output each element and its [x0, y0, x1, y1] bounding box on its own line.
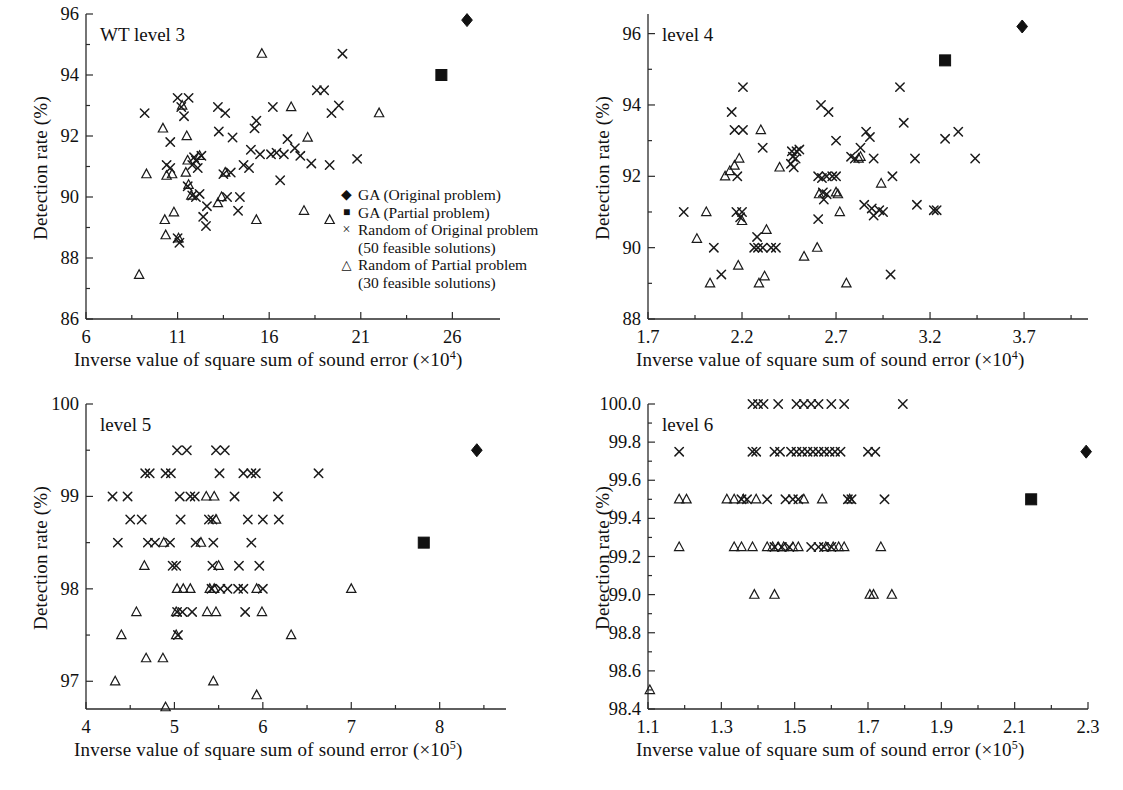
legend-sublabel: (50 feasible solutions) [338, 239, 538, 257]
data-point-cross [763, 495, 771, 503]
series-square [1026, 494, 1037, 505]
legend: ◆GA (Original problem)■GA (Partial probl… [338, 186, 538, 292]
data-point-diamond [1081, 445, 1092, 458]
x-axis-label-text: Inverse value of square sum of sound err… [636, 739, 975, 760]
data-point-cross [792, 400, 800, 408]
data-point-triangle [818, 494, 827, 503]
panel-level6-x-axis-label: Inverse value of square sum of sound err… [636, 738, 1024, 761]
data-point-cross [814, 400, 822, 408]
x-tick-label: 1.5 [783, 717, 806, 737]
panel-level6-title: level 6 [662, 414, 713, 436]
data-point-cross [899, 400, 907, 408]
data-point-cross [781, 495, 789, 503]
legend-symbol-triangle-icon: △ [338, 256, 355, 274]
legend-item: △Random of Partial problem [338, 256, 538, 274]
x-tick-label: 1.9 [930, 717, 953, 737]
data-point-cross [675, 447, 683, 455]
y-tick-label: 100.0 [599, 394, 641, 414]
legend-item: ■GA (Partial problem) [338, 204, 538, 222]
x-tick-label: 2.3 [1076, 717, 1099, 737]
x-axis-ticks [648, 702, 1088, 709]
tick-labels: 98.498.698.899.099.299.499.699.8100.01.1… [599, 394, 1099, 737]
figure-root: 868890929496611162126Detection rate (%)I… [0, 0, 1123, 790]
data-point-cross [774, 400, 782, 408]
series-diamond [1081, 445, 1092, 458]
data-point-triangle [770, 590, 779, 599]
legend-label: Random of Original problem [355, 221, 538, 239]
y-tick-label: 98.4 [609, 699, 641, 719]
data-point-cross [871, 447, 879, 455]
data-point-cross [776, 447, 784, 455]
series-triangle [645, 494, 896, 693]
data-point-cross [880, 495, 888, 503]
data-point-triangle [645, 685, 654, 694]
data-point-cross [864, 447, 872, 455]
axis-spines [648, 404, 1088, 709]
legend-item: ◆GA (Original problem) [338, 186, 538, 204]
data-point-triangle [748, 542, 757, 551]
data-point-cross [836, 447, 844, 455]
y-tick-label: 98.6 [609, 661, 641, 681]
x-tick-label: 2.1 [1003, 717, 1026, 737]
panel-level6-plot: 98.498.698.899.099.299.499.699.8100.01.1… [0, 0, 1123, 790]
legend-symbol-cross-icon: × [338, 221, 355, 239]
data-point-triangle [752, 494, 761, 503]
legend-symbol-square-icon: ■ [338, 204, 355, 222]
y-axis-ticks [648, 404, 655, 709]
data-point-triangle [675, 542, 684, 551]
data-point-cross [759, 400, 767, 408]
data-point-triangle [876, 542, 885, 551]
legend-sublabel: (30 feasible solutions) [338, 274, 538, 292]
y-tick-label: 99.8 [609, 432, 641, 452]
data-point-cross [827, 400, 835, 408]
data-point-cross [807, 400, 815, 408]
data-point-square [1026, 494, 1037, 505]
legend-label: GA (Original problem) [355, 186, 501, 204]
x-tick-label: 1.7 [856, 717, 879, 737]
legend-item: ×Random of Original problem [338, 221, 538, 239]
legend-label: Random of Partial problem [355, 256, 527, 274]
legend-label: GA (Partial problem) [355, 204, 490, 222]
data-point-cross [840, 400, 848, 408]
x-tick-label: 1.1 [636, 717, 659, 737]
panel-level6-y-axis-label: Detection rate (%) [592, 486, 614, 630]
data-point-cross [807, 543, 815, 551]
x-axis-label-exponent: (×105) [975, 739, 1025, 760]
data-point-triangle [887, 590, 896, 599]
legend-symbol-diamond-icon: ◆ [338, 186, 355, 204]
data-point-cross [800, 400, 808, 408]
x-tick-label: 1.3 [710, 717, 733, 737]
data-point-triangle [750, 590, 759, 599]
